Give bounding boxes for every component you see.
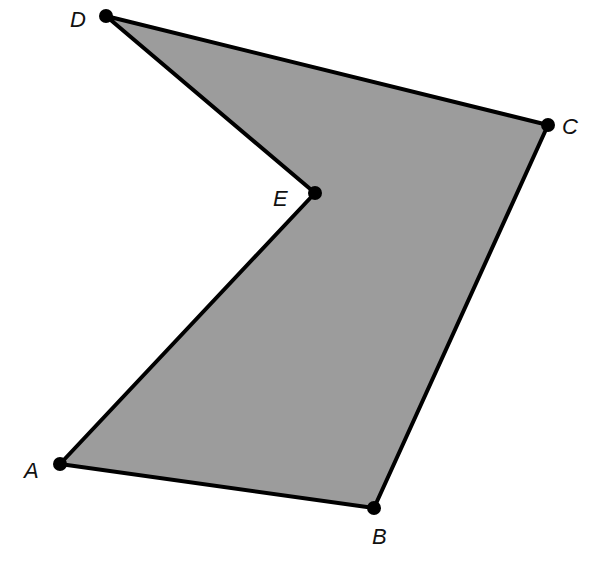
vertex-point-c <box>541 118 555 132</box>
vertex-label-c: C <box>562 114 578 139</box>
vertex-point-b <box>367 501 381 515</box>
vertex-point-a <box>53 457 67 471</box>
polygon-abcde <box>60 16 548 508</box>
vertex-label-d: D <box>70 7 86 32</box>
vertex-label-e: E <box>273 186 288 211</box>
vertex-point-d <box>99 9 113 23</box>
vertex-point-e <box>308 186 322 200</box>
vertex-label-b: B <box>372 524 387 549</box>
vertex-label-a: A <box>22 458 39 483</box>
polygon-diagram: A B C D E <box>0 0 599 567</box>
